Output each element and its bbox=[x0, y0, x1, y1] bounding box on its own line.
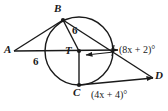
point-label-a: A bbox=[4, 44, 11, 55]
angle-label-4x-plus-4: (4x + 4)° bbox=[91, 90, 127, 100]
point-label-d: D bbox=[155, 70, 163, 81]
leader-angle-btd bbox=[86, 52, 114, 55]
ray-c-to-d bbox=[79, 78, 153, 85]
angle-label-8x-plus-2: (8x + 2)° bbox=[119, 45, 155, 55]
point-dot-B bbox=[61, 18, 65, 22]
point-dot-T bbox=[77, 49, 81, 53]
geometry-canvas bbox=[0, 0, 168, 111]
segment-length-at: 6 bbox=[33, 56, 39, 67]
point-label-b: B bbox=[54, 3, 61, 14]
segment-length-bt: 6 bbox=[72, 25, 78, 36]
segment-ab bbox=[14, 20, 63, 51]
point-label-c: C bbox=[73, 87, 80, 98]
geometry-figure: A B T C D 6 6 (8x + 2)° (4x + 4)° bbox=[0, 0, 168, 111]
point-label-t: T bbox=[65, 45, 72, 56]
